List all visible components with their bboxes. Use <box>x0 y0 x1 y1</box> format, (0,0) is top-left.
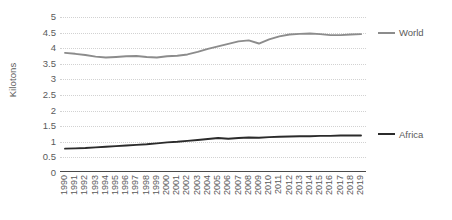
plot-area <box>60 17 366 173</box>
legend-item-africa[interactable]: Africa <box>378 129 423 140</box>
y-tick-label: 5 <box>22 12 56 22</box>
y-axis-title: Kilotons <box>7 44 23 116</box>
series-line-africa <box>65 136 361 149</box>
y-tick-label: 3.5 <box>22 59 56 69</box>
series-line-world <box>65 34 361 58</box>
x-axis-tick-labels: 1990199119921993199419951996199719981999… <box>60 175 366 220</box>
line-chart: Kilotons 00.511.522.533.544.55 199019911… <box>0 0 452 220</box>
y-tick-label: 2.5 <box>22 90 56 100</box>
y-tick-label: 1.5 <box>22 121 56 131</box>
y-tick-label: 0 <box>22 168 56 178</box>
y-tick-label: 1 <box>22 137 56 147</box>
series-lines <box>60 17 366 173</box>
x-axis-line <box>60 171 366 172</box>
chart-legend: WorldAfrica <box>378 0 452 220</box>
legend-swatch-icon <box>378 32 395 34</box>
y-tick-label: 4.5 <box>22 28 56 38</box>
legend-item-world[interactable]: World <box>378 27 424 38</box>
x-tick-label: 2019 <box>355 175 367 217</box>
y-axis-tick-labels: 00.511.522.533.544.55 <box>22 0 56 220</box>
y-tick-label: 0.5 <box>22 152 56 162</box>
y-tick-label: 2 <box>22 106 56 116</box>
legend-label: World <box>399 27 424 38</box>
legend-swatch-icon <box>378 133 395 135</box>
legend-label: Africa <box>399 129 423 140</box>
y-tick-label: 4 <box>22 43 56 53</box>
y-tick-label: 3 <box>22 74 56 84</box>
